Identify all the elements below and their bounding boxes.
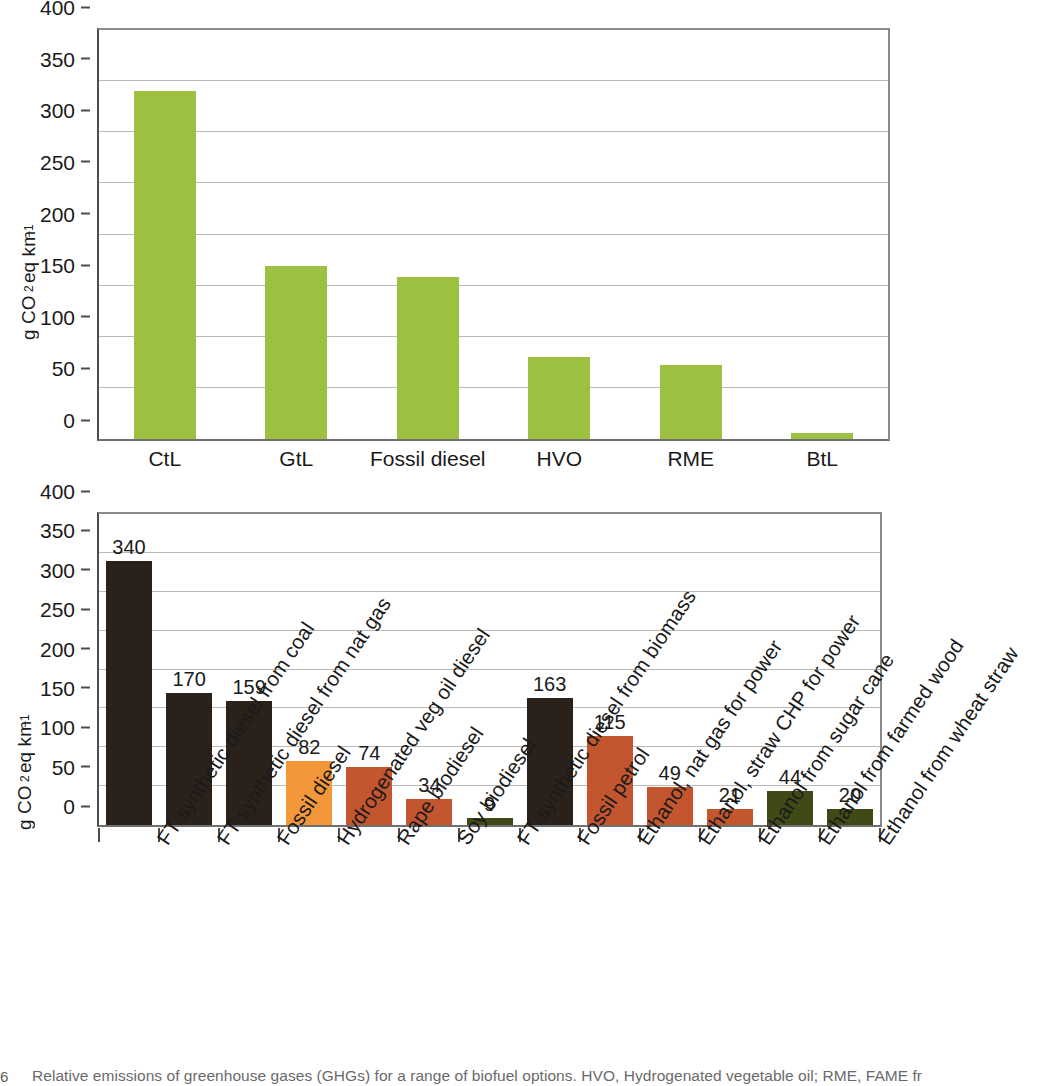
y-axis-label-prefix: g CO	[14, 785, 35, 830]
y-axis-tick-label: 50	[52, 358, 75, 379]
x-axis-category-label: BtL	[757, 447, 889, 471]
figure-caption-marker: 6	[0, 1068, 8, 1085]
y-axis-tick-label: 350	[40, 520, 75, 541]
x-axis-category-label: HVO	[494, 447, 626, 471]
bar-cell	[625, 30, 757, 439]
y-axis-tick-label: 50	[52, 756, 75, 777]
y-axis-label-superscript: −1	[18, 714, 32, 728]
y-axis-tick-mark	[81, 109, 90, 111]
y-axis-tick: 0	[63, 796, 90, 817]
bar	[528, 357, 590, 439]
y-axis-label-mid: eq km	[14, 721, 35, 779]
y-axis-label-subscript: 2	[18, 775, 32, 782]
y-axis-tick: 50	[52, 358, 90, 379]
x-axis-rotated-labels-bottom: FT synthetic diesel from coalFT syntheti…	[0, 836, 1050, 1056]
y-axis-tick: 300	[40, 100, 90, 121]
x-axis-category-label: Fossil diesel	[362, 447, 494, 471]
y-axis-tick-label: 400	[40, 481, 75, 502]
bar-value-label: 74	[358, 743, 380, 763]
figure-caption-text: Relative emissions of greenhouse gases (…	[32, 1067, 922, 1085]
y-axis-tick: 400	[40, 481, 90, 502]
y-axis-tick-mark	[81, 6, 90, 8]
bar	[265, 266, 327, 439]
y-axis-tick: 250	[40, 599, 90, 620]
y-axis-tick-mark	[81, 569, 90, 571]
y-axis-tick-label: 300	[40, 100, 75, 121]
y-axis-tick: 150	[40, 255, 90, 276]
y-axis-tick-mark	[81, 419, 90, 421]
y-axis-tick: 100	[40, 306, 90, 327]
y-axis-tick-label: 150	[40, 255, 75, 276]
y-axis-tick-label: 250	[40, 599, 75, 620]
y-axis-label-bottom: g CO2 eq km−1	[14, 600, 36, 830]
y-axis-tick: 300	[40, 559, 90, 580]
bar	[660, 365, 722, 439]
y-axis-tick-mark	[81, 58, 90, 60]
y-axis-tick-mark	[81, 726, 90, 728]
x-axis-category-label: RME	[625, 447, 757, 471]
chart-top-aggregated-fuels: g CO2 eq km−1 050100150200250300350400 C…	[0, 0, 1050, 482]
x-axis-category-label: GtL	[231, 447, 363, 471]
y-axis-tick-label: 300	[40, 559, 75, 580]
y-axis-tick-label: 350	[40, 48, 75, 69]
bar	[134, 91, 196, 439]
y-axis-tick-mark	[81, 264, 90, 266]
y-axis-tick: 150	[40, 677, 90, 698]
y-axis-tick-label: 250	[40, 151, 75, 172]
bar-series-top	[99, 30, 888, 439]
bar-value-label: 170	[172, 669, 205, 689]
y-axis-tick: 100	[40, 717, 90, 738]
y-axis-tick: 400	[40, 0, 90, 18]
x-axis-categories-top: CtLGtLFossil dieselHVORMEBtL	[99, 447, 888, 471]
y-axis-tick: 200	[40, 203, 90, 224]
y-axis-tick: 200	[40, 638, 90, 659]
bar-cell: 340	[99, 514, 159, 825]
bar	[791, 433, 853, 439]
y-axis-tick-label: 100	[40, 717, 75, 738]
y-axis-tick: 350	[40, 520, 90, 541]
y-axis-tick-mark	[81, 687, 90, 689]
y-axis-ticks-top: 050100150200250300350400	[40, 28, 90, 441]
bar-cell	[99, 30, 231, 439]
figure-caption: 6 Relative emissions of greenhouse gases…	[0, 1066, 1050, 1086]
x-axis-category-label: CtL	[99, 447, 231, 471]
bar-cell	[231, 30, 363, 439]
y-axis-tick-label: 200	[40, 203, 75, 224]
bar-cell	[757, 30, 889, 439]
y-axis-tick-label: 400	[40, 0, 75, 18]
bar-cell	[362, 30, 494, 439]
y-axis-ticks-bottom: 050100150200250300350400	[40, 512, 90, 827]
y-axis-tick-mark	[81, 648, 90, 650]
y-axis-label-mid: eq km	[18, 231, 39, 289]
y-axis-tick-mark	[81, 490, 90, 492]
y-axis-tick-label: 0	[63, 410, 75, 431]
y-axis-tick-label: 150	[40, 677, 75, 698]
y-axis-label-superscript: −1	[22, 224, 36, 238]
y-axis-label-subscript: 2	[22, 285, 36, 292]
y-axis-tick-mark	[81, 766, 90, 768]
y-axis-tick-label: 0	[63, 796, 75, 817]
y-axis-tick-mark	[81, 316, 90, 318]
bar-cell	[494, 30, 626, 439]
y-axis-tick-mark	[81, 805, 90, 807]
y-axis-tick-mark	[81, 213, 90, 215]
y-axis-tick: 250	[40, 151, 90, 172]
y-axis-tick-mark	[81, 608, 90, 610]
y-axis-tick-label: 100	[40, 306, 75, 327]
y-axis-tick: 350	[40, 48, 90, 69]
y-axis-tick-mark	[81, 529, 90, 531]
y-axis-tick-mark	[81, 161, 90, 163]
y-axis-tick: 0	[63, 410, 90, 431]
y-axis-tick-mark	[81, 367, 90, 369]
y-axis-label-prefix: g CO	[18, 295, 39, 340]
bar-value-label: 340	[112, 537, 145, 557]
y-axis-tick-label: 200	[40, 638, 75, 659]
bar-value-label: 163	[533, 674, 566, 694]
y-axis-label-top: g CO2 eq km−1	[18, 120, 40, 340]
bar	[397, 277, 459, 439]
y-axis-tick: 50	[52, 756, 90, 777]
bar: 340	[106, 561, 152, 825]
